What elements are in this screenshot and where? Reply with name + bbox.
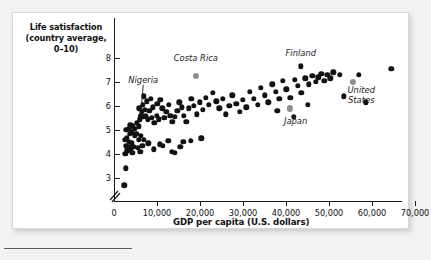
data-point bbox=[292, 77, 297, 82]
data-point-finland bbox=[298, 64, 303, 69]
data-point bbox=[266, 100, 271, 105]
data-point bbox=[160, 143, 165, 148]
data-point bbox=[276, 96, 281, 101]
data-point bbox=[280, 78, 285, 83]
data-point bbox=[156, 116, 161, 121]
data-point bbox=[258, 85, 263, 90]
data-point-costa-rica bbox=[193, 73, 199, 79]
data-point bbox=[313, 79, 318, 84]
x-tick-mark bbox=[157, 201, 158, 206]
data-point bbox=[162, 115, 167, 120]
data-point bbox=[165, 138, 170, 143]
data-point bbox=[284, 86, 289, 91]
data-point bbox=[136, 124, 141, 129]
annotation-label-nigeria: Nigeria bbox=[128, 76, 158, 85]
x-tick-label: 0 bbox=[111, 208, 116, 218]
data-point bbox=[214, 98, 219, 103]
x-tick-label: 60,000 bbox=[358, 208, 387, 218]
data-point bbox=[210, 90, 215, 95]
data-point bbox=[356, 72, 361, 77]
figure-page: Life satisfaction (country average, 0–10… bbox=[0, 0, 431, 260]
data-point bbox=[217, 106, 222, 111]
y-axis-label-line-1: Life satisfaction bbox=[17, 22, 115, 33]
y-tick-label: 7 bbox=[91, 77, 111, 87]
x-tick-mark bbox=[415, 201, 416, 206]
data-point bbox=[275, 108, 280, 113]
y-tick-label: 6 bbox=[91, 101, 111, 111]
data-point bbox=[191, 103, 196, 108]
annotation-label-costa-rica: Costa Rica bbox=[174, 54, 218, 63]
y-axis-label-line-2: (country average, bbox=[17, 33, 115, 44]
data-point bbox=[305, 102, 310, 107]
y-tick-mark bbox=[115, 82, 120, 83]
x-tick-label: 70,000 bbox=[401, 208, 430, 218]
y-tick-label: 4 bbox=[91, 149, 111, 159]
data-point bbox=[233, 101, 238, 106]
data-point bbox=[146, 140, 151, 145]
data-point bbox=[123, 166, 128, 171]
data-point bbox=[130, 150, 135, 155]
y-tick-mark bbox=[115, 178, 120, 179]
data-point bbox=[273, 89, 278, 94]
data-point bbox=[270, 82, 275, 87]
data-point bbox=[227, 103, 232, 108]
data-point bbox=[255, 102, 260, 107]
data-point bbox=[172, 114, 177, 119]
data-point bbox=[247, 89, 252, 94]
data-point bbox=[140, 143, 145, 148]
x-tick-label: 50,000 bbox=[315, 208, 344, 218]
data-point bbox=[170, 119, 175, 124]
y-tick-mark bbox=[115, 154, 120, 155]
data-point bbox=[148, 96, 153, 101]
data-point bbox=[322, 78, 327, 83]
x-tick-mark bbox=[372, 201, 373, 206]
data-point bbox=[194, 112, 199, 117]
data-point bbox=[197, 100, 202, 105]
data-point bbox=[158, 97, 163, 102]
y-tick-label: 8 bbox=[91, 53, 111, 63]
data-point bbox=[184, 119, 189, 124]
data-point bbox=[331, 70, 336, 75]
data-point bbox=[178, 144, 183, 149]
chart-card: Life satisfaction (country average, 0–10… bbox=[12, 12, 409, 229]
data-point bbox=[251, 96, 256, 101]
y-tick-mark bbox=[115, 130, 120, 131]
data-point bbox=[150, 104, 155, 109]
annotation-label-united-states: United States bbox=[341, 86, 381, 105]
data-point bbox=[181, 113, 186, 118]
x-tick-mark bbox=[200, 201, 201, 206]
y-tick-label: 3 bbox=[91, 173, 111, 183]
data-point-japan bbox=[287, 105, 293, 111]
data-point bbox=[188, 138, 193, 143]
x-tick-mark bbox=[329, 201, 330, 206]
data-point bbox=[389, 66, 394, 71]
data-point bbox=[172, 150, 177, 155]
data-point bbox=[244, 104, 249, 109]
data-point bbox=[179, 104, 184, 109]
y-tick-mark bbox=[115, 106, 120, 107]
data-point bbox=[328, 76, 333, 81]
data-point bbox=[223, 112, 228, 117]
data-point bbox=[181, 139, 186, 144]
data-point bbox=[240, 97, 245, 102]
data-point bbox=[138, 149, 143, 154]
data-point bbox=[337, 72, 342, 77]
x-tick-mark bbox=[243, 201, 244, 206]
data-point bbox=[237, 109, 242, 114]
data-point bbox=[299, 90, 304, 95]
data-point bbox=[262, 92, 267, 97]
y-tick-label: 5 bbox=[91, 125, 111, 135]
axis-break-icon bbox=[108, 187, 124, 203]
annotation-label-japan: Japan bbox=[284, 117, 307, 126]
footnote-rule bbox=[4, 248, 132, 249]
data-point bbox=[288, 95, 293, 100]
data-point bbox=[206, 102, 211, 107]
data-point bbox=[189, 96, 194, 101]
data-point bbox=[303, 76, 308, 81]
data-point bbox=[175, 108, 180, 113]
scatter-plot: Life satisfaction (country average, 0–10… bbox=[13, 13, 410, 230]
data-point bbox=[199, 136, 204, 141]
x-tick-label: 10,000 bbox=[143, 208, 172, 218]
y-axis-label: Life satisfaction (country average, 0–10… bbox=[17, 22, 115, 56]
data-point bbox=[310, 73, 315, 78]
